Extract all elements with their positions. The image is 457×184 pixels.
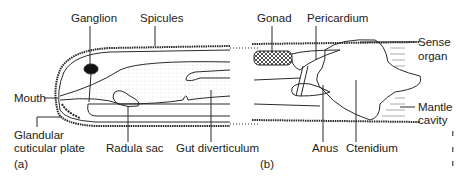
label-gonad: Gonad bbox=[257, 12, 292, 25]
label-ctenidium: Ctenidium bbox=[346, 142, 398, 155]
panel-b-body bbox=[252, 26, 421, 142]
label-ganglion: Ganglion bbox=[71, 12, 117, 25]
label-mantle-line2: cavity bbox=[418, 114, 447, 127]
label-radula-sac: Radula sac bbox=[106, 142, 164, 155]
label-glandular-line1: Glandular bbox=[14, 129, 64, 142]
label-mouth: Mouth bbox=[14, 92, 46, 105]
panel-a-body bbox=[37, 26, 260, 142]
label-mantle-line1: Mantle bbox=[418, 101, 453, 114]
label-pericardium: Pericardium bbox=[307, 12, 368, 25]
label-sense-line2: organ bbox=[418, 50, 447, 63]
label-anus: Anus bbox=[312, 142, 338, 155]
label-sense-line1: Sense bbox=[418, 36, 451, 49]
diagram-drawing bbox=[0, 0, 457, 184]
label-gut-diverticulum: Gut diverticulum bbox=[176, 142, 259, 155]
panel-b-tag: (b) bbox=[260, 158, 274, 171]
label-spicules: Spicules bbox=[140, 12, 183, 25]
panel-a-tag: (a) bbox=[14, 158, 28, 171]
label-glandular-line2: cuticular plate bbox=[14, 142, 85, 155]
